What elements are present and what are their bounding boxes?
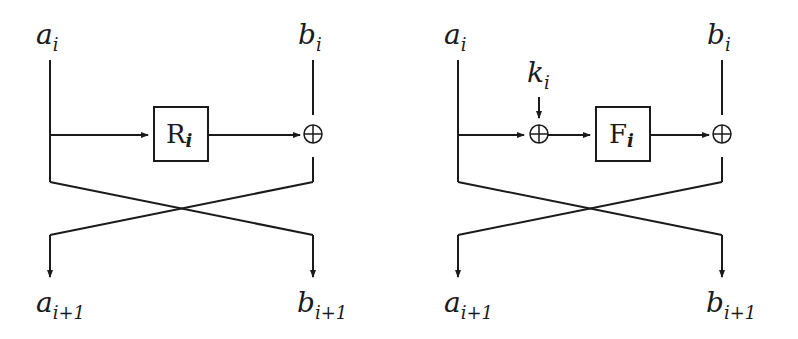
xor-key-icon <box>530 125 548 143</box>
label-b-i1: bi+1 <box>706 286 756 323</box>
label-a-i1: ai+1 <box>36 286 85 323</box>
label-a-i1: ai+1 <box>444 286 493 323</box>
label-b-i: bi <box>707 18 731 55</box>
feistel-diagrams: ai bi Ri ai+1 bi+1 ai bi ki <box>0 0 798 339</box>
label-b-i1: bi+1 <box>297 286 347 323</box>
label-b-i: bi <box>298 18 322 55</box>
label-a-i: ai <box>36 18 58 55</box>
label-a-i: ai <box>444 18 466 55</box>
xor-icon <box>713 125 731 143</box>
left-round-diagram: ai bi Ri ai+1 bi+1 <box>36 18 347 323</box>
xor-icon <box>304 125 322 143</box>
label-k-i: ki <box>527 56 550 93</box>
right-round-diagram: ai bi ki Fi ai+1 bi+1 <box>444 18 756 323</box>
